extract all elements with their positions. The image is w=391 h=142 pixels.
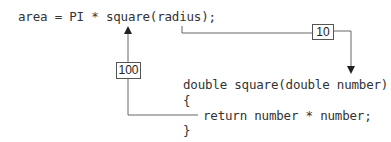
function-close-brace: } [183,125,190,138]
return-value-box: 100 [116,62,141,79]
function-header: double square(double number) [183,79,388,92]
function-open-brace: { [183,95,190,108]
function-return-statement: return number * number; [203,110,372,123]
function-call-diagram: area = PI * square(radius); 10 100 doubl… [0,0,391,142]
argument-flow-line [182,26,312,33]
argument-flow-line-to-parameter [334,31,351,70]
argument-value-box: 10 [312,24,334,40]
call-statement: area = PI * square(radius); [18,11,216,24]
